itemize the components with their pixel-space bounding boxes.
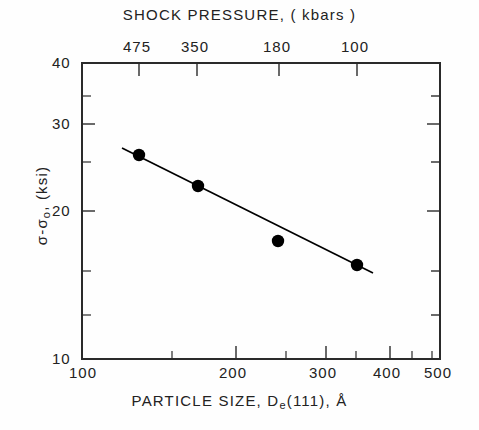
chart-figure: SHOCK PRESSURE, ( kbars ) PARTICLE SIZE,…: [0, 0, 479, 430]
data-point: [351, 259, 363, 271]
data-point: [272, 235, 284, 247]
right-axis-ticks: [427, 96, 440, 315]
data-point: [133, 149, 145, 161]
trend-line: [122, 148, 373, 273]
axes-frame: [82, 63, 440, 359]
x-axis-major-ticks: [236, 346, 390, 359]
data-point: [192, 180, 204, 192]
y-axis-minor-ticks: [82, 96, 91, 315]
top-axis-ticks: [139, 63, 357, 76]
plot-canvas: [0, 0, 479, 430]
y-axis-major-ticks: [82, 124, 95, 211]
x-axis-minor-ticks: [172, 351, 432, 359]
